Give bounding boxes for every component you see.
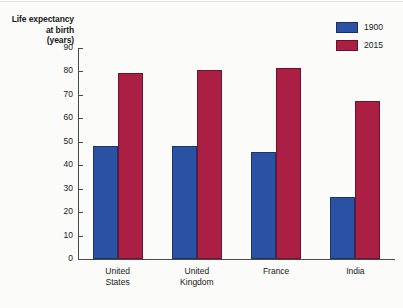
x-axis-label-line: Kingdom bbox=[152, 277, 242, 288]
y-axis-tick-label: 90 bbox=[40, 43, 73, 52]
x-axis-label-line: France bbox=[231, 266, 321, 277]
bar-india-1900 bbox=[330, 197, 355, 259]
plot-area bbox=[78, 48, 395, 259]
legend-swatch-1900 bbox=[336, 22, 358, 33]
y-axis-tick-label: 40 bbox=[40, 160, 73, 169]
bar-india-2015 bbox=[355, 101, 380, 259]
scan-artifact-line bbox=[0, 1, 403, 2]
legend-label-1900: 1900 bbox=[364, 23, 383, 32]
y-axis-tick-mark bbox=[79, 259, 83, 260]
x-axis-label-united-states: UnitedStates bbox=[73, 266, 163, 287]
bar-france-1900 bbox=[251, 152, 276, 259]
y-axis-title-line-2: at birth bbox=[8, 25, 74, 36]
chart-figure: Life expectancy at birth (years) 9080706… bbox=[0, 0, 403, 308]
x-axis-line bbox=[78, 259, 395, 260]
x-axis-label-line: United bbox=[152, 266, 242, 277]
y-axis-tick-label: 20 bbox=[40, 207, 73, 216]
y-axis-tick-label: 50 bbox=[40, 137, 73, 146]
bar-france-2015 bbox=[276, 68, 301, 259]
y-axis-title: Life expectancy at birth (years) bbox=[8, 14, 74, 46]
bar-united-kingdom-2015 bbox=[197, 70, 222, 259]
y-axis-title-line-1: Life expectancy bbox=[8, 14, 74, 25]
x-axis-label-line: United bbox=[73, 266, 163, 277]
bar-united-states-1900 bbox=[93, 146, 118, 259]
x-axis-label-india: India bbox=[310, 266, 400, 277]
bar-united-kingdom-1900 bbox=[172, 146, 197, 259]
y-axis-tick-label: 10 bbox=[40, 231, 73, 240]
y-axis-tick-label: 60 bbox=[40, 113, 73, 122]
x-axis-label-line: India bbox=[310, 266, 400, 277]
legend-swatch-2015 bbox=[336, 40, 358, 51]
y-axis-tick-label: 70 bbox=[40, 90, 73, 99]
bar-united-states-2015 bbox=[118, 73, 143, 259]
x-axis-label-line: States bbox=[73, 277, 163, 288]
legend-label-2015: 2015 bbox=[364, 41, 383, 50]
x-axis-label-france: France bbox=[231, 266, 321, 277]
y-axis-tick-label: 30 bbox=[40, 184, 73, 193]
y-axis-tick-label: 0 bbox=[40, 254, 73, 263]
x-axis-label-united-kingdom: UnitedKingdom bbox=[152, 266, 242, 287]
y-axis-tick-label: 80 bbox=[40, 66, 73, 75]
